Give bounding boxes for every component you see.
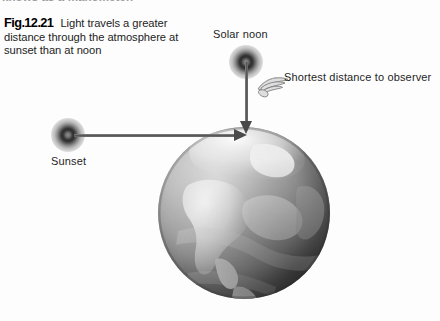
label-solar-noon: Solar noon — [213, 28, 268, 40]
figure-number: Fig.12.21 — [4, 15, 53, 30]
label-shortest-distance-to-observer: Shortest distance to observer — [284, 71, 431, 83]
earth-globe-icon — [158, 127, 330, 299]
label-sunset: Sunset — [51, 155, 86, 167]
cut-off-text-line: knows as a manometer. — [2, 0, 182, 3]
sunset-ray-line — [74, 134, 242, 137]
solar-noon-ray-arrowhead-icon — [240, 121, 252, 134]
solar-noon-ray-line — [245, 62, 248, 124]
figure-caption: Fig.12.21Light travels a greater distanc… — [4, 16, 204, 58]
figure-container: knows as a manometer. Fig.12.21Light tra… — [0, 0, 440, 321]
